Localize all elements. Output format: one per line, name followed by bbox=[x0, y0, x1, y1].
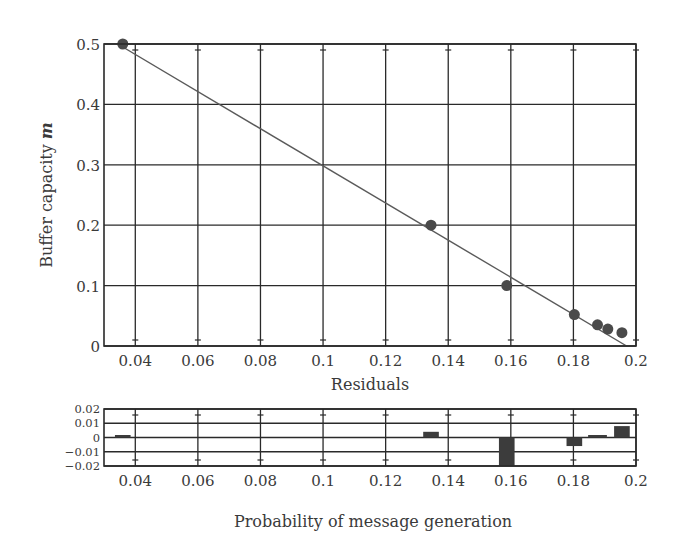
x-tick-label: 0.16 bbox=[494, 472, 527, 490]
x-tick-label: 0.2 bbox=[624, 352, 648, 370]
x-tick-label: 0.14 bbox=[432, 472, 465, 490]
data-point bbox=[592, 319, 603, 330]
top-frame bbox=[104, 44, 636, 346]
y-tick-label: 0.4 bbox=[76, 96, 100, 114]
residual-bar bbox=[499, 438, 515, 467]
x-tick-label: 0.1 bbox=[311, 472, 335, 490]
residual-tick-labels: 0.040.060.080.10.120.140.160.180.20.020.… bbox=[65, 402, 648, 490]
residual-bar bbox=[423, 432, 439, 438]
y-tick-label: 0.02 bbox=[74, 402, 100, 416]
y-tick-label: 0.2 bbox=[76, 217, 100, 235]
residuals-chart: 0.040.060.080.10.120.140.160.180.20.020.… bbox=[65, 402, 648, 531]
residual-bars bbox=[115, 426, 630, 466]
x-tick-label: 0.06 bbox=[181, 352, 214, 370]
x-tick-label: 0.1 bbox=[311, 352, 335, 370]
x-tick-label: 0.12 bbox=[369, 352, 402, 370]
y-label-text: Buffer capacity bbox=[37, 139, 56, 268]
plot-frame bbox=[104, 44, 636, 346]
y-tick-label: 0.01 bbox=[74, 416, 100, 430]
residual-bar bbox=[614, 426, 630, 437]
y-tick-label: 0.1 bbox=[76, 278, 100, 296]
y-tick-label: 0 bbox=[93, 431, 100, 445]
x-tick-label: 0.04 bbox=[119, 472, 152, 490]
x-tick-label: 0.18 bbox=[557, 352, 590, 370]
data-point bbox=[569, 309, 580, 320]
x-tick-label: 0.08 bbox=[244, 352, 277, 370]
data-point bbox=[616, 327, 627, 338]
top-series bbox=[117, 39, 627, 347]
data-point bbox=[426, 220, 437, 231]
buffer-capacity-chart: 0.040.060.080.10.120.140.160.180.200.10.… bbox=[37, 36, 648, 394]
x-tick-label: 0.18 bbox=[557, 472, 590, 490]
data-point bbox=[602, 324, 613, 335]
y-tick-label: 0 bbox=[90, 338, 100, 356]
top-tick-labels: 0.040.060.080.10.120.140.160.180.200.10.… bbox=[76, 36, 648, 370]
residual-bar bbox=[588, 435, 607, 438]
residual-bar bbox=[115, 435, 131, 438]
bottom-x-axis-label: Probability of message generation bbox=[234, 512, 512, 531]
y-tick-label: 0.5 bbox=[76, 36, 100, 54]
y-tick-label: 0.3 bbox=[76, 157, 100, 175]
x-tick-label: 0.08 bbox=[244, 472, 277, 490]
x-tick-label: 0.04 bbox=[119, 352, 152, 370]
y-tick-label: −0.01 bbox=[65, 445, 100, 459]
top-y-axis-label: Buffer capacity m bbox=[37, 122, 56, 267]
residual-bar bbox=[567, 438, 583, 447]
y-label-variable: m bbox=[37, 122, 56, 139]
x-tick-label: 0.14 bbox=[432, 352, 465, 370]
y-tick-label: −0.02 bbox=[65, 459, 100, 473]
residual-grid bbox=[104, 409, 639, 466]
figure: 0.040.060.080.10.120.140.160.180.200.10.… bbox=[0, 0, 676, 555]
x-tick-label: 0.12 bbox=[369, 472, 402, 490]
top-x-axis-label: Residuals bbox=[331, 375, 409, 394]
x-tick-label: 0.06 bbox=[181, 472, 214, 490]
x-tick-label: 0.2 bbox=[624, 472, 648, 490]
data-point bbox=[501, 280, 512, 291]
x-tick-label: 0.16 bbox=[494, 352, 527, 370]
